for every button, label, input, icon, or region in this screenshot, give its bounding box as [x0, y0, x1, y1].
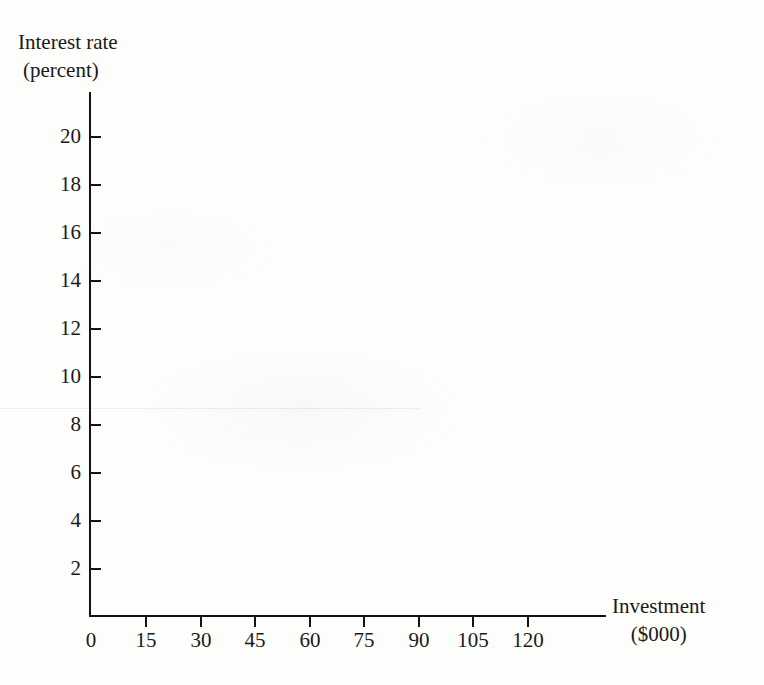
y-axis-tick-label: 14	[37, 270, 81, 291]
x-axis-tick-label-text: 120	[498, 628, 558, 652]
y-axis-tick-label: 2	[37, 558, 81, 579]
y-axis-tick-label-text: 4	[37, 510, 81, 531]
plot-area	[91, 92, 606, 615]
y-axis-tick-label: 10	[37, 366, 81, 387]
y-axis-tick-label-text: 16	[37, 222, 81, 243]
y-axis-title: Interest rate (percent)	[18, 28, 118, 84]
y-axis-tick-label-text: 8	[37, 414, 81, 435]
y-axis-tick-mark	[91, 520, 101, 522]
y-axis-tick-label-text: 6	[37, 462, 81, 483]
y-axis-tick-label: 16	[37, 222, 81, 243]
x-axis-tick-label: 0	[61, 628, 121, 652]
x-axis-tick-label-text: 0	[61, 628, 121, 652]
y-axis-tick-label-text: 2	[37, 558, 81, 579]
x-axis-tick-label-text: 15	[116, 628, 176, 652]
y-axis-tick-label-text: 14	[37, 270, 81, 291]
x-axis-tick-label: 105	[443, 628, 503, 652]
x-axis-tick-label: 30	[171, 628, 231, 652]
x-axis-tick-label-text: 60	[280, 628, 340, 652]
x-axis-tick-label: 45	[225, 628, 285, 652]
x-axis-tick-label: 90	[389, 628, 449, 652]
x-axis-tick-mark	[418, 617, 420, 627]
y-axis-tick-label: 12	[37, 318, 81, 339]
y-axis-tick-label: 4	[37, 510, 81, 531]
x-axis-title: Investment ($000)	[612, 592, 705, 648]
y-axis-tick-label: 6	[37, 462, 81, 483]
x-axis-title-line-2: ($000)	[612, 620, 705, 648]
y-axis-tick-mark	[91, 376, 101, 378]
x-axis-tick-mark	[472, 617, 474, 627]
x-axis-tick-mark	[200, 617, 202, 627]
y-axis-tick-mark	[91, 472, 101, 474]
x-axis-tick-label: 120	[498, 628, 558, 652]
x-axis-tick-mark	[363, 617, 365, 627]
x-axis-tick-mark	[527, 617, 529, 627]
y-axis-tick-mark	[91, 328, 101, 330]
x-axis-tick-mark	[254, 617, 256, 627]
y-axis-title-line-1: Interest rate	[18, 30, 118, 54]
x-axis-title-line-1: Investment	[612, 594, 705, 618]
y-axis-title-line-2: (percent)	[18, 56, 118, 84]
x-axis-tick-label: 60	[280, 628, 340, 652]
y-axis-tick-label: 18	[37, 174, 81, 195]
y-axis-tick-mark	[91, 136, 101, 138]
x-axis-tick-label-text: 45	[225, 628, 285, 652]
x-axis-tick-mark	[145, 617, 147, 627]
x-axis-tick-label-text: 75	[334, 628, 394, 652]
y-axis-tick-mark	[91, 568, 101, 570]
y-axis-tick-label: 20	[37, 126, 81, 147]
y-axis-tick-label-text: 10	[37, 366, 81, 387]
y-axis-tick-label: 8	[37, 414, 81, 435]
x-axis-tick-label-text: 30	[171, 628, 231, 652]
y-axis-tick-label-text: 12	[37, 318, 81, 339]
x-axis-tick-label: 75	[334, 628, 394, 652]
x-axis-tick-label-text: 90	[389, 628, 449, 652]
x-axis-tick-label-text: 105	[443, 628, 503, 652]
y-axis-tick-label-text: 20	[37, 126, 81, 147]
y-axis-tick-mark	[91, 184, 101, 186]
x-axis-tick-mark	[309, 617, 311, 627]
chart-figure: Interest rate (percent) Investment ($000…	[0, 0, 764, 685]
y-axis-tick-mark	[91, 280, 101, 282]
y-axis-tick-mark	[91, 424, 101, 426]
x-axis-tick-label: 15	[116, 628, 176, 652]
y-axis-tick-label-text: 18	[37, 174, 81, 195]
y-axis-tick-mark	[91, 232, 101, 234]
